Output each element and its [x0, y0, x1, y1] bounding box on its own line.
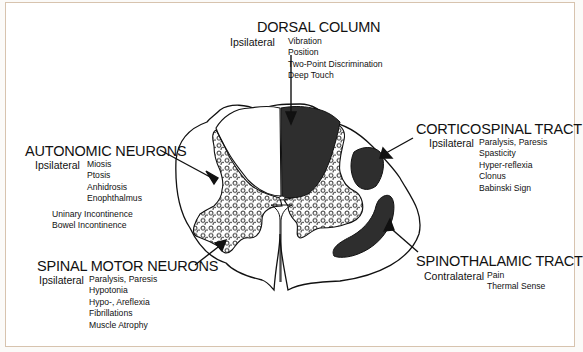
finding: Bowel Incontinence — [52, 220, 186, 231]
autonomic-neurons-additional-findings: Uninary Incontinence Bowel Incontinence — [52, 209, 186, 232]
corticospinal-tract-findings: Paralysis, Paresis Spasticity Hyper-refl… — [479, 137, 547, 194]
spinothalamic-tract-laterality: Contralateral — [424, 270, 487, 293]
finding: Deep Touch — [288, 70, 383, 81]
finding: Spasticity — [479, 148, 547, 159]
finding: Two-Point Discrimination — [288, 59, 383, 70]
spinothalamic-tract-label: SPINOTHALAMIC TRACT Contralateral Pain T… — [416, 253, 583, 293]
finding: Hypotonia — [89, 285, 157, 296]
finding: Ptosis — [87, 170, 142, 181]
autonomic-neurons-title: AUTONOMIC NEURONS — [25, 143, 186, 159]
dorsal-column-label: DORSAL COLUMN Ipsilateral Vibration Posi… — [230, 19, 383, 82]
finding: Babinski Sign — [479, 183, 547, 194]
central-canal — [279, 196, 285, 200]
dorsal-column-findings: Vibration Position Two-Point Discriminat… — [288, 36, 383, 82]
corticospinal-tract-arrow — [386, 138, 413, 153]
autonomic-neurons-findings: Miosis Ptosis Anhidrosis Enophthalmus — [87, 159, 142, 205]
finding: Thermal Sense — [487, 281, 545, 292]
spinal-motor-neurons-title: SPINAL MOTOR NEURONS — [37, 258, 218, 274]
corticospinal-tract-title: CORTICOSPINAL TRACT — [416, 121, 582, 137]
spinal-motor-neurons-findings: Paralysis, Paresis Hypotonia Hypo-, Aref… — [89, 274, 157, 331]
finding: Anhidrosis — [87, 182, 142, 193]
corticospinal-tract-laterality: Ipsilateral — [429, 137, 479, 194]
finding: Position — [288, 47, 383, 58]
finding: Hyper-reflexia — [479, 160, 547, 171]
spinothalamic-tract-findings: Pain Thermal Sense — [487, 270, 545, 293]
finding: Vibration — [288, 36, 383, 47]
finding: Clonus — [479, 171, 547, 182]
finding: Hypo-, Areflexia — [89, 297, 157, 308]
spinal-motor-neurons-label: SPINAL MOTOR NEURONS Ipsilateral Paralys… — [37, 258, 218, 331]
dorsal-column-laterality: Ipsilateral — [230, 36, 288, 82]
finding: Miosis — [87, 159, 142, 170]
autonomic-neurons-label: AUTONOMIC NEURONS Ipsilateral Miosis Pto… — [25, 143, 186, 231]
corticospinal-tract-lesion — [351, 148, 383, 190]
dorsal-column-title: DORSAL COLUMN — [257, 19, 383, 35]
finding: Paralysis, Paresis — [479, 137, 547, 148]
finding: Muscle Atrophy — [89, 320, 157, 331]
corticospinal-tract-label: CORTICOSPINAL TRACT Ipsilateral Paralysi… — [416, 121, 582, 194]
finding: Pain — [487, 270, 545, 281]
finding: Uninary Incontinence — [52, 209, 186, 220]
spinal-motor-neurons-laterality: Ipsilateral — [39, 274, 89, 331]
spinothalamic-tract-title: SPINOTHALAMIC TRACT — [416, 253, 583, 269]
finding: Enophthalmus — [87, 193, 142, 204]
finding: Fibrillations — [89, 308, 157, 319]
autonomic-neurons-laterality: Ipsilateral — [35, 159, 87, 205]
finding: Paralysis, Paresis — [89, 274, 157, 285]
